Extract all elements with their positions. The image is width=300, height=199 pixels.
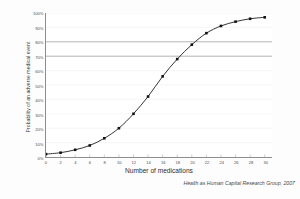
data-point-marker [161,75,164,78]
x-tick-label: 2 [60,160,62,165]
y-tick-label: 70% [35,54,43,59]
x-tick-label: 26 [234,160,239,165]
data-point-marker [132,113,135,116]
data-point-marker [205,32,208,35]
x-tick-label: 10 [117,160,122,165]
x-tick-label: 8 [103,160,105,165]
data-point-marker [176,58,179,61]
y-tick-label: 20% [35,127,43,132]
data-point-marker [191,43,194,46]
chart-figure: Probability of an adverse medical event … [0,0,300,199]
x-tick-label: 0 [45,160,47,165]
data-point-marker [103,137,106,140]
x-tick-label: 28 [249,160,254,165]
gridlines [46,13,272,157]
data-point-marker [249,17,252,20]
y-axis-title: Probability of an adverse medical event [25,12,31,162]
x-axis-title: Number of medications [45,167,273,174]
x-tick-label: 24 [219,160,224,165]
x-tick-label: 16 [161,160,166,165]
y-tick-label: 90% [35,25,43,30]
data-point-marker [263,16,266,19]
x-tick-label: 6 [89,160,91,165]
y-tick-label: 100% [33,11,43,16]
data-point-marker [74,149,77,152]
trend-line [46,17,265,154]
x-tick-label: 20 [190,160,195,165]
plot-area: 0%10%20%30%40%50%60%70%80%90%100% 024681… [45,13,272,158]
data-series [46,17,265,154]
y-tick-label: 50% [35,83,43,88]
attribution-text: Health as Human Capital Research Group, … [183,180,295,186]
y-tick-label: 10% [35,141,43,146]
y-tick-label: 60% [35,69,43,74]
data-point-marker [88,144,91,147]
x-tick-label: 12 [132,160,137,165]
y-tick-label: 80% [35,40,43,45]
y-tick-label: 0% [38,156,44,161]
data-point-marker [147,95,150,98]
x-tick-label: 22 [205,160,210,165]
data-point-marker [234,20,237,23]
x-tick-label: 30 [263,160,268,165]
x-tick-label: 4 [74,160,76,165]
y-tick-label: 40% [35,98,43,103]
chart-canvas [46,13,272,157]
y-tick-label: 30% [35,112,43,117]
data-point-marker [118,127,121,130]
data-point-marker [220,25,223,28]
x-tick-label: 18 [176,160,181,165]
data-point-marker [46,153,47,156]
data-point-marker [59,151,62,154]
x-tick-label: 14 [146,160,151,165]
